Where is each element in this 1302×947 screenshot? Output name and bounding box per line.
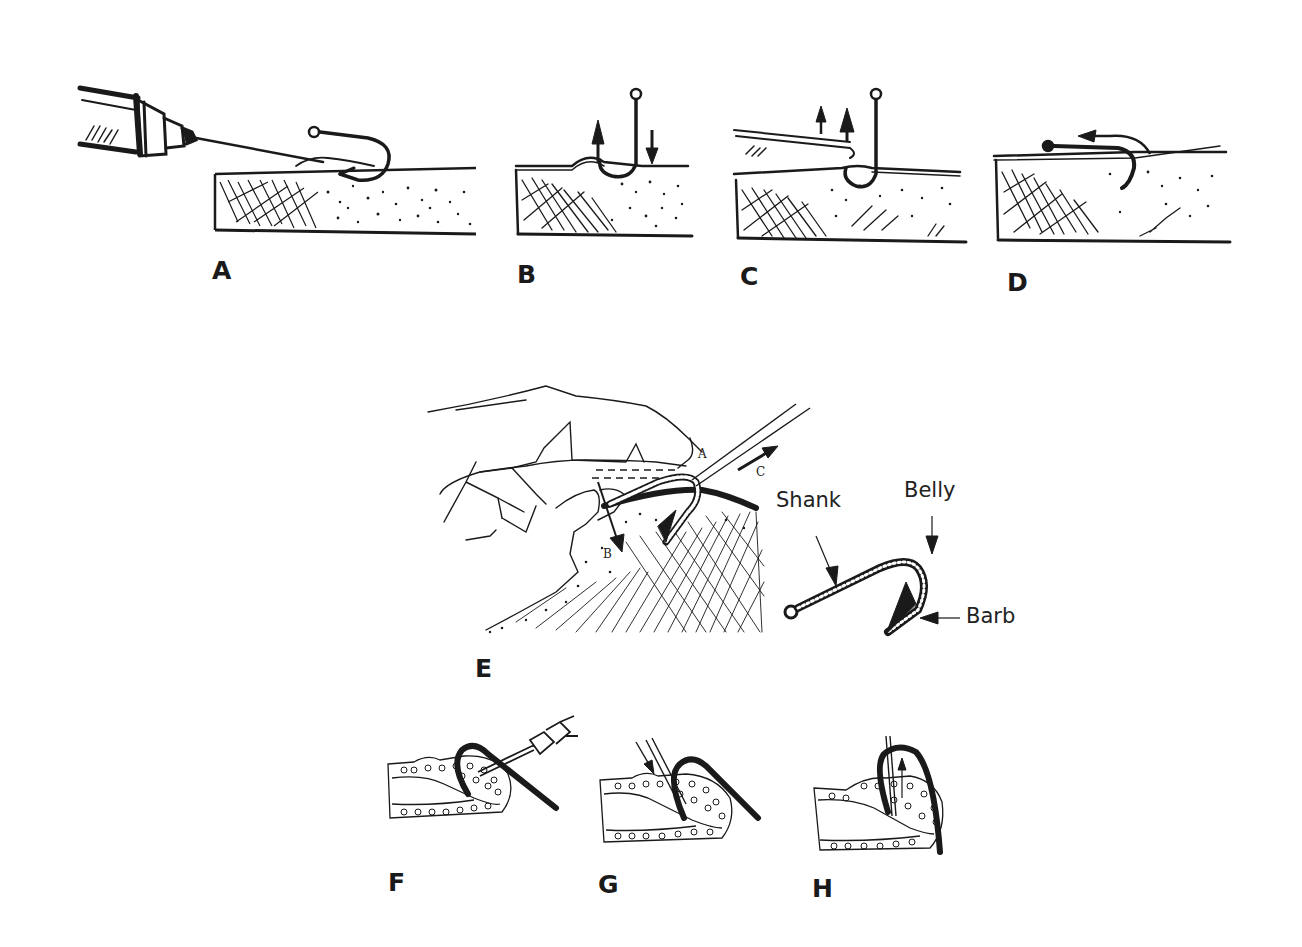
panel-label-d: D bbox=[1007, 270, 1028, 295]
arrow-up-icon bbox=[898, 758, 906, 798]
needle-icon bbox=[734, 130, 854, 158]
arrow-up-icon bbox=[816, 106, 826, 134]
panel-g-illustration bbox=[596, 736, 776, 846]
panel-label-c: C bbox=[740, 264, 758, 289]
panel-e-marker-c: C bbox=[756, 466, 765, 478]
tissue-hatching bbox=[522, 178, 616, 232]
curved-arrow-icon bbox=[1078, 130, 1150, 154]
hand-outline bbox=[428, 386, 702, 630]
label-barb: Barb bbox=[966, 606, 1015, 627]
panel-label-f: F bbox=[388, 870, 405, 895]
syringe-icon bbox=[80, 88, 323, 162]
panel-e-marker-b: B bbox=[603, 548, 612, 560]
syringe-icon bbox=[478, 716, 578, 776]
arrow-up-icon bbox=[592, 120, 604, 162]
panel-label-b: B bbox=[517, 262, 536, 287]
arrow-down-icon bbox=[636, 742, 654, 774]
fingertip-cross-section bbox=[600, 773, 732, 842]
panel-a-illustration bbox=[78, 82, 488, 242]
panel-e-marker-a: A bbox=[698, 448, 707, 460]
panel-b-illustration bbox=[512, 80, 697, 240]
arrow-down-icon bbox=[646, 130, 658, 164]
panel-label-a: A bbox=[212, 258, 231, 283]
panel-e-illustration bbox=[426, 382, 818, 642]
label-shank: Shank bbox=[776, 490, 841, 511]
label-belly: Belly bbox=[904, 480, 955, 501]
fishhook-icon bbox=[880, 747, 940, 852]
panel-f: F bbox=[384, 714, 584, 894]
panel-label-g: G bbox=[598, 872, 619, 897]
panel-g: G bbox=[596, 736, 776, 906]
panel-d-illustration bbox=[990, 128, 1235, 253]
skin-block bbox=[215, 168, 476, 234]
fishhook-icon bbox=[785, 562, 924, 634]
fishhook-icon bbox=[845, 89, 881, 187]
fishhook-icon bbox=[674, 759, 758, 818]
arrow-b-icon bbox=[598, 482, 624, 552]
fingertip-cross-section bbox=[814, 776, 943, 850]
arrow-up-icon bbox=[840, 108, 854, 142]
shank-pointer-icon bbox=[816, 536, 838, 586]
belly-pointer-icon bbox=[926, 516, 938, 554]
panel-b: B bbox=[512, 80, 697, 290]
panel-f-illustration bbox=[384, 714, 584, 844]
panel-c: C bbox=[732, 80, 972, 290]
panel-h: H bbox=[810, 736, 970, 906]
panel-d: D bbox=[990, 128, 1235, 298]
tissue-hatching bbox=[516, 512, 764, 632]
panel-h-illustration bbox=[810, 736, 970, 861]
panel-a: A bbox=[78, 82, 488, 242]
panel-label-e: E bbox=[475, 656, 492, 681]
panel-label-h: H bbox=[812, 876, 833, 901]
barb-pointer-icon bbox=[920, 612, 960, 624]
panel-c-illustration bbox=[732, 80, 972, 245]
fishhook-icon bbox=[1043, 141, 1134, 188]
hook-anatomy: Shank Belly Barb bbox=[770, 470, 1050, 640]
panel-e: A B C E bbox=[426, 382, 818, 682]
fishhook-icon bbox=[610, 477, 698, 542]
fishhook-icon bbox=[457, 746, 556, 808]
